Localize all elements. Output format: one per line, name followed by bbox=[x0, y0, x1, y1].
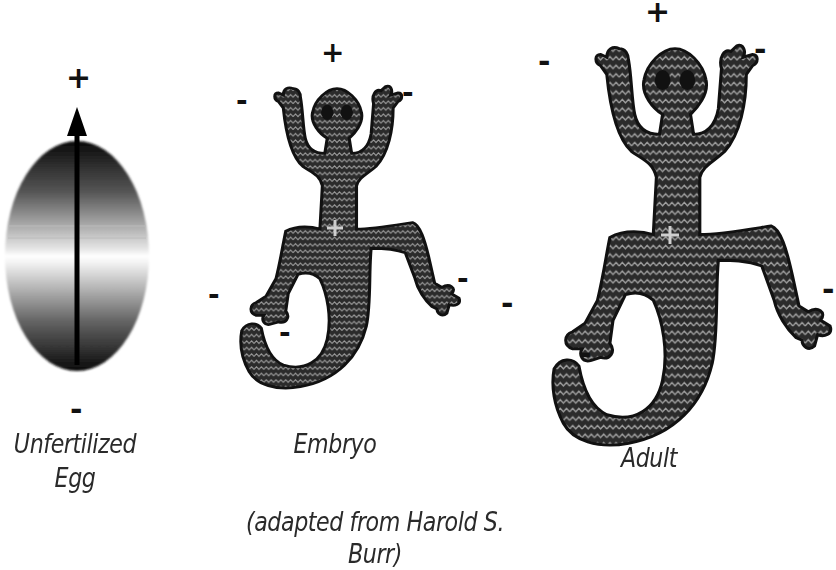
egg-positive-sign: + bbox=[66, 60, 91, 95]
adult-tail-minus-sign: - bbox=[579, 336, 591, 371]
embryo-right-arm-minus-sign: - bbox=[402, 76, 414, 109]
embryo-label: Embryo bbox=[274, 428, 397, 460]
adult-top-plus-sign: + bbox=[645, 0, 670, 29]
embryo-left-leg-minus-sign: - bbox=[208, 278, 220, 311]
embryo-lizard bbox=[241, 86, 460, 388]
adult-left-leg-minus-sign: - bbox=[501, 286, 513, 321]
arrow-head-icon bbox=[67, 107, 87, 136]
embryo-top-plus-sign: + bbox=[321, 36, 344, 69]
embryo-tail-minus-sign: - bbox=[279, 316, 291, 349]
egg-label-line2: Egg bbox=[14, 462, 137, 494]
adult-lizard bbox=[553, 45, 831, 445]
egg-label-line1: Unfertilized bbox=[14, 428, 137, 460]
adult-label: Adult bbox=[588, 442, 711, 474]
embryo-left-arm-minus-sign: - bbox=[236, 84, 248, 117]
adult-left-arm-minus-sign: - bbox=[538, 44, 550, 79]
egg-negative-sign: - bbox=[70, 392, 82, 427]
attribution-caption: (adapted from Harold S. Burr) bbox=[223, 506, 526, 570]
adult-right-arm-minus-sign: - bbox=[754, 32, 766, 67]
adult-right-leg-minus-sign: - bbox=[822, 272, 834, 307]
egg-figure bbox=[5, 107, 149, 371]
embryo-right-leg-minus-sign: - bbox=[457, 262, 469, 295]
